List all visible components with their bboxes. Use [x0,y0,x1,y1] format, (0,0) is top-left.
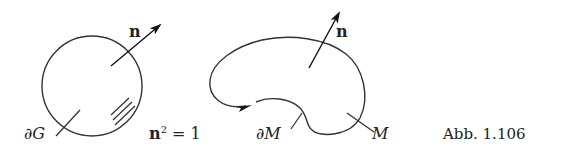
hatch-marks [111,98,135,125]
equation-base: n [149,124,161,143]
figure-caption: Abb. 1.106 [443,125,526,143]
normal-label-right: n [336,22,348,41]
boundary-label-left: ∂G [24,124,45,143]
equation-rest: = 1 [167,124,201,143]
boundary-pointer-right [291,113,302,129]
boundary-pointer-left [56,110,80,136]
equation: n2 = 1 [149,124,201,143]
circle-region [42,25,160,136]
kidney-region [210,13,374,134]
region-label: M [372,124,388,143]
boundary-label-right: ∂M [256,124,281,143]
normal-label-left: n [129,22,141,41]
